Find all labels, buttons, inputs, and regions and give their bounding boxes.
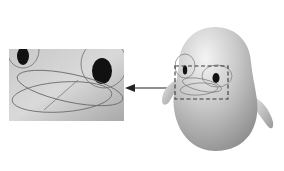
eye-left [183, 66, 187, 75]
penguin-character [162, 27, 273, 151]
arrowhead-icon [125, 84, 135, 92]
body [173, 27, 257, 151]
eye-right [213, 73, 220, 83]
eye-left [17, 47, 29, 65]
zoomed-inset [7, 32, 127, 121]
figure [0, 0, 284, 171]
